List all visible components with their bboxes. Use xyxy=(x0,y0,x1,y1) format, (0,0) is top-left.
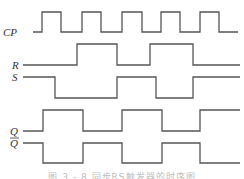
s-waveform xyxy=(23,77,240,98)
s-label: S xyxy=(12,71,18,83)
q-waveform xyxy=(23,110,240,131)
signal-q-bar: Q xyxy=(10,137,240,163)
signal-cp: CP xyxy=(3,12,238,38)
q-bar-label: Q xyxy=(10,137,18,149)
signal-s: S xyxy=(12,71,240,98)
r-waveform xyxy=(23,44,240,65)
r-label: R xyxy=(11,59,19,71)
q-bar-waveform xyxy=(23,143,240,163)
q-label: Q xyxy=(10,125,18,137)
cp-label: CP xyxy=(3,26,17,38)
cp-waveform xyxy=(33,12,238,32)
signal-q: Q xyxy=(10,110,240,137)
figure-caption: 图 3 - 8 同步RS触发器的时序图 xyxy=(0,170,244,179)
timing-diagram: CP R S Q Q xyxy=(0,0,244,179)
signal-r: R xyxy=(11,44,240,71)
